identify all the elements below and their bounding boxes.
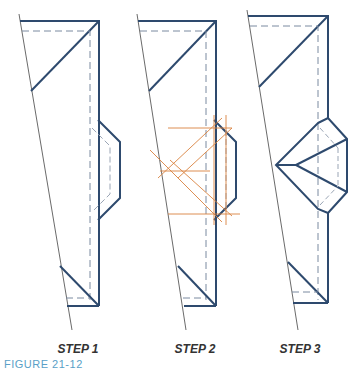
step-1-drawing [19,14,120,330]
step-2-label: STEP 2 [155,342,235,356]
step-3-label: STEP 3 [260,342,340,356]
step-3-drawing [247,10,347,330]
figure-caption: FIGURE 21-12 [4,358,83,370]
pyramid-shape [276,118,347,213]
step-1-label: STEP 1 [38,342,118,356]
diagram-canvas [0,0,359,372]
step-2-drawing [137,14,240,330]
